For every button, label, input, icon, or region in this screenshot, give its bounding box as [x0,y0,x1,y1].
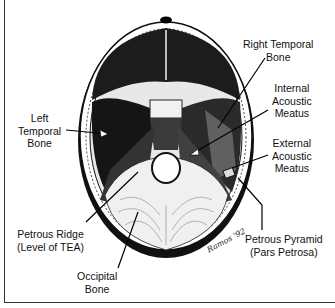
label-right-temporal-bone: Right Temporal Bone [243,38,313,63]
label-left-temporal-bone: Left Temporal Bone [18,112,61,150]
foramen-cecum [160,17,172,24]
label-petrous-ridge: Petrous Ridge (Level of TEA) [17,228,84,253]
foramen-magnum [152,153,180,183]
label-internal-acoustic-meatus: Internal Acoustic Meatus [272,82,312,120]
label-petrous-pyramid: Petrous Pyramid (Pars Petrosa) [245,233,323,258]
label-occipital-bone: Occipital Bone [77,270,117,295]
label-external-acoustic-meatus: External Acoustic Meatus [272,137,312,175]
